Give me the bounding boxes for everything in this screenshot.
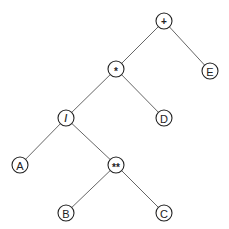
- edge-pow-to-C: [122, 171, 159, 208]
- expression-tree-diagram: +*E/DA**BC: [0, 0, 229, 229]
- tree-edges: [26, 27, 205, 208]
- edge-div-to-A: [26, 124, 61, 160]
- node-label: D: [160, 113, 168, 125]
- edge-plus-to-E: [169, 27, 204, 65]
- tree-node-A: A: [12, 157, 28, 173]
- edge-pow-to-B: [72, 171, 110, 208]
- node-label: **: [112, 162, 120, 173]
- tree-node-D: D: [156, 110, 172, 126]
- node-label: B: [62, 208, 69, 220]
- node-label: /: [65, 113, 68, 124]
- tree-node-E: E: [202, 63, 218, 79]
- tree-node-C: C: [156, 205, 172, 221]
- edge-div-to-pow: [72, 123, 110, 159]
- edge-plus-to-mul: [122, 27, 159, 64]
- edge-mul-to-div: [72, 75, 111, 113]
- tree-node-plus: +: [156, 13, 172, 29]
- edge-mul-to-D: [122, 75, 159, 113]
- node-label: E: [206, 66, 213, 78]
- tree-node-mul: *: [108, 61, 124, 77]
- node-label: *: [114, 66, 118, 77]
- tree-nodes: +*E/DA**BC: [12, 13, 218, 221]
- node-label: C: [160, 208, 168, 220]
- tree-node-pow: **: [108, 157, 124, 173]
- node-label: A: [16, 160, 24, 172]
- tree-node-div: /: [58, 110, 74, 126]
- tree-node-B: B: [58, 205, 74, 221]
- node-label: +: [161, 16, 167, 27]
